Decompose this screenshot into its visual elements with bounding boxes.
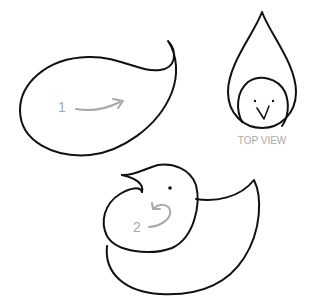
folding-diagram: 1 TOP VIEW 2 — [0, 0, 314, 304]
step2-arrow — [149, 203, 170, 227]
step1-number: 1 — [58, 99, 66, 115]
top-view-face — [254, 100, 274, 119]
diagram-canvas: 1 TOP VIEW 2 — [0, 0, 314, 304]
top-view-head — [238, 78, 288, 126]
step2-body — [107, 180, 259, 294]
step1-shape — [20, 41, 176, 155]
top-view-label: TOP VIEW — [238, 135, 287, 146]
step2-eye — [168, 186, 172, 190]
step1-arrow — [76, 99, 123, 110]
step2-number: 2 — [133, 219, 141, 235]
step2-head — [104, 165, 198, 252]
